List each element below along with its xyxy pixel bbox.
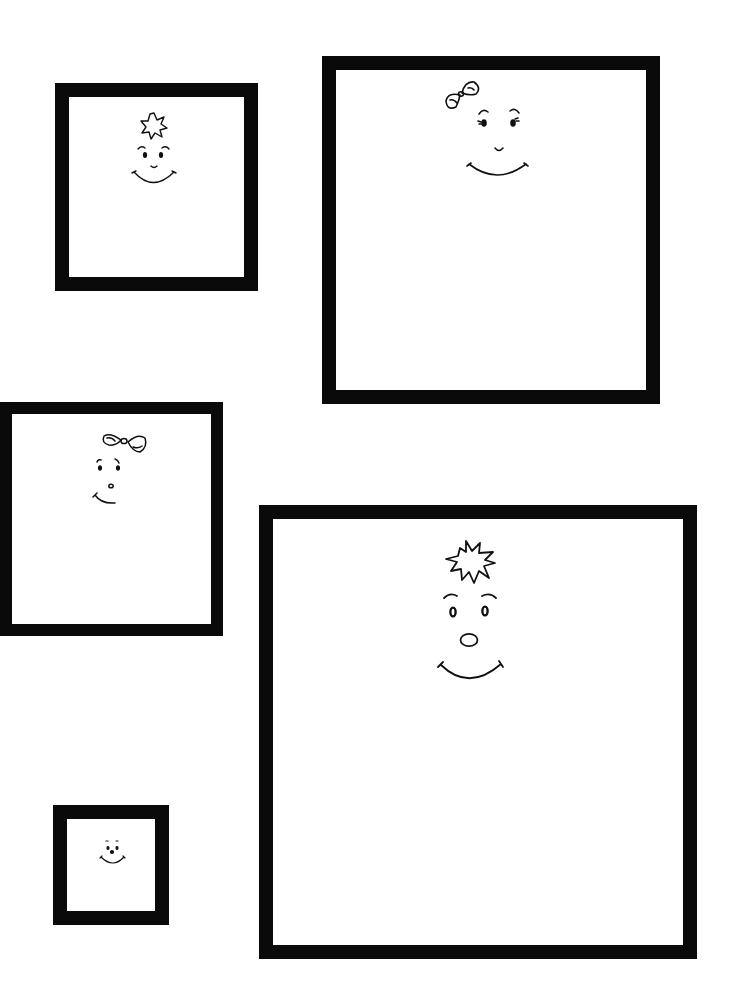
picture-frame-large-top-right [322,56,660,404]
picture-frame-tiny-bottom-left [53,805,169,925]
picture-frame-middle-left [0,402,223,636]
picture-frame-small-top-left [55,83,258,291]
picture-frame-largest-bottom-right [259,505,697,959]
